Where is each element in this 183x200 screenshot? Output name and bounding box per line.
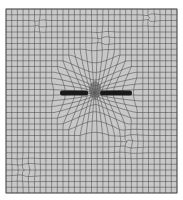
finite-element-mesh	[0, 0, 183, 200]
